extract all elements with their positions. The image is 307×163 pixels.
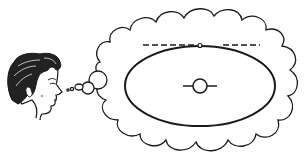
- central-body: [193, 79, 207, 93]
- thought-bubble: [67, 9, 298, 151]
- bubble-dot: [67, 89, 69, 91]
- cheek-mark: [41, 95, 43, 97]
- bubble-tiny: [70, 87, 73, 90]
- bubble-medium: [82, 82, 94, 94]
- figure: [0, 0, 307, 163]
- person-head: [8, 53, 62, 120]
- orbiting-object: [198, 44, 202, 48]
- bubble-small: [75, 84, 83, 90]
